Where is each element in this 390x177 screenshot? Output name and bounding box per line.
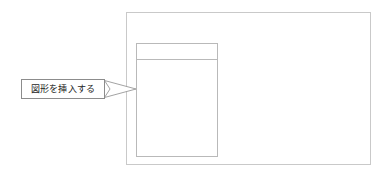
shape-body [137,61,217,156]
annotation-label: 図形を挿入する [31,85,95,94]
annotation-callout[interactable]: 図形を挿入する [21,79,105,99]
callout-tail [104,78,138,100]
diagram-stage: 図形を挿入する [0,0,390,177]
shape-header-band [137,44,217,60]
inserted-shape[interactable] [136,43,218,157]
